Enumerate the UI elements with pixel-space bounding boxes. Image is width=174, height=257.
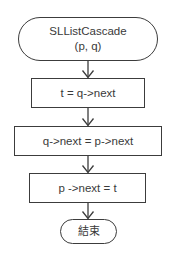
end-terminal: 結束 (60, 219, 117, 244)
arrow-step-3-to-end (80, 203, 96, 219)
start-terminal-title: SLListCascade (49, 24, 126, 39)
start-terminal-params: (p, q) (75, 39, 102, 54)
start-terminal: SLListCascade (p, q) (18, 17, 158, 61)
process-step-2: q->next = p->next (14, 126, 162, 156)
process-step-2-label: q->next = p->next (43, 134, 133, 149)
process-step-3: p ->next = t (29, 173, 146, 203)
end-terminal-label: 結束 (78, 224, 100, 239)
process-step-3-label: p ->next = t (58, 181, 116, 196)
arrow-step-1-to-step-2 (80, 108, 96, 126)
process-step-1: t = q->next (31, 78, 145, 108)
arrow-step-2-to-step-3 (80, 156, 96, 173)
process-step-1-label: t = q->next (61, 86, 116, 101)
arrow-start-to-step-1 (80, 61, 96, 78)
